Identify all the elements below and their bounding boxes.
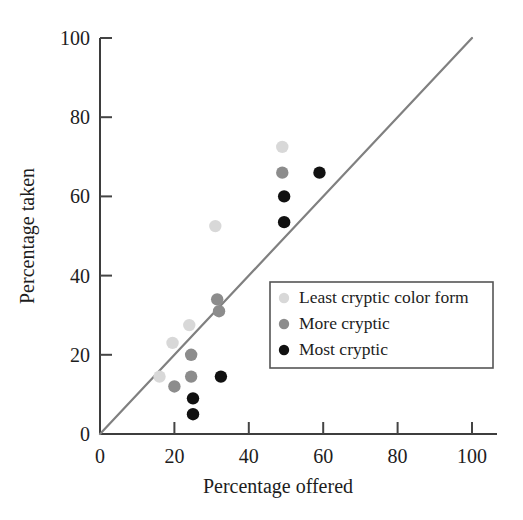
y-tick-label-20: 20 — [70, 344, 90, 366]
y-tick-label-60: 60 — [70, 185, 90, 207]
legend-label-1: More cryptic — [299, 313, 390, 333]
y-tick-label-80: 80 — [70, 106, 90, 128]
legend: Least cryptic color formMore crypticMost… — [270, 282, 493, 368]
x-tick-label-80: 80 — [388, 445, 408, 467]
y-tick-label-0: 0 — [80, 423, 90, 445]
data-point — [211, 293, 223, 305]
data-point — [276, 166, 288, 178]
data-point — [278, 190, 290, 202]
y-tick-label-100: 100 — [60, 27, 90, 49]
x-tick-label-100: 100 — [457, 445, 487, 467]
data-point — [213, 305, 225, 317]
data-point — [185, 349, 197, 361]
y-axis-title: Percentage taken — [16, 168, 39, 304]
chart-canvas: 020406080100 020406080100 Least cryptic … — [0, 0, 523, 520]
data-point — [313, 166, 325, 178]
y-tick-label-40: 40 — [70, 265, 90, 287]
x-tick-label-0: 0 — [95, 445, 105, 467]
legend-marker-2 — [279, 345, 289, 355]
legend-label-0: Least cryptic color form — [299, 287, 469, 307]
data-point — [187, 408, 199, 420]
data-point — [278, 216, 290, 228]
data-point — [187, 392, 199, 404]
data-point — [166, 337, 178, 349]
data-point — [185, 370, 197, 382]
legend-marker-1 — [279, 319, 289, 329]
legend-label-2: Most cryptic — [299, 339, 388, 359]
data-point — [153, 370, 165, 382]
x-tick-label-20: 20 — [164, 445, 184, 467]
data-point — [276, 141, 288, 153]
chart-background — [0, 0, 523, 520]
x-axis-title: Percentage offered — [203, 475, 353, 498]
data-point — [183, 319, 195, 331]
data-point — [209, 220, 221, 232]
scatter-chart-figure: 020406080100 020406080100 Least cryptic … — [0, 0, 523, 520]
legend-marker-0 — [279, 293, 289, 303]
data-point — [168, 380, 180, 392]
data-point — [215, 370, 227, 382]
x-tick-label-40: 40 — [239, 445, 259, 467]
x-tick-label-60: 60 — [313, 445, 333, 467]
